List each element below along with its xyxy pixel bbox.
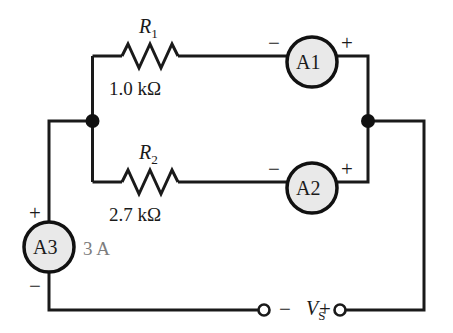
source-label-main: V	[306, 297, 318, 319]
resistor-label-r2-sub: 2	[151, 152, 158, 167]
resistor-label-r2-main: R	[139, 141, 151, 163]
wire-left-node-to-a3-top	[49, 121, 93, 222]
ammeter-label-a2: A2	[296, 178, 320, 198]
resistor-zigzag-icon-r1	[122, 44, 178, 68]
ammeter-a3-minus-sign: −	[29, 276, 41, 297]
circuit-schematic-svg	[0, 0, 453, 333]
wire-right-node-to-source-right	[345, 121, 424, 310]
ammeter-a3-plus-sign: +	[29, 203, 41, 224]
resistor-value-r1: 1.0 kΩ	[109, 79, 161, 98]
ammeter-a3-reading: 3 A	[83, 239, 110, 258]
ammeter-a2-minus-sign: −	[268, 159, 280, 180]
source-minus-sign: −	[279, 299, 291, 320]
resistor-label-r2: R2	[139, 142, 158, 166]
ammeter-a1-minus-sign: −	[268, 33, 280, 54]
ammeter-a1-plus-sign: +	[341, 33, 353, 54]
branch-right-outer	[345, 121, 424, 310]
junction-dot-icon-left	[86, 114, 100, 128]
open-terminal-icon-source-plus[interactable]	[335, 305, 346, 316]
junction-dot-icon-right	[361, 114, 375, 128]
resistor-label-r1-main: R	[139, 15, 151, 37]
resistor-label-r1: R1	[139, 16, 158, 40]
source-plus-sign: +	[319, 299, 331, 320]
wire-a3-bottom-to-source-left	[49, 272, 259, 310]
circuit-diagram: R1 1.0 kΩ R2 2.7 kΩ A1 − + A2 − + A3 + −…	[0, 0, 453, 333]
open-terminal-icon-source-minus[interactable]	[259, 305, 270, 316]
ammeter-label-a3: A3	[33, 237, 57, 257]
resistor-zigzag-icon-r2	[122, 170, 178, 194]
ammeter-label-a1: A1	[296, 52, 320, 72]
ammeter-a2-plus-sign: +	[341, 159, 353, 180]
wire-a1-to-right-node	[336, 56, 368, 121]
resistor-label-r1-sub: 1	[151, 26, 158, 41]
resistor-value-r2: 2.7 kΩ	[109, 205, 161, 224]
